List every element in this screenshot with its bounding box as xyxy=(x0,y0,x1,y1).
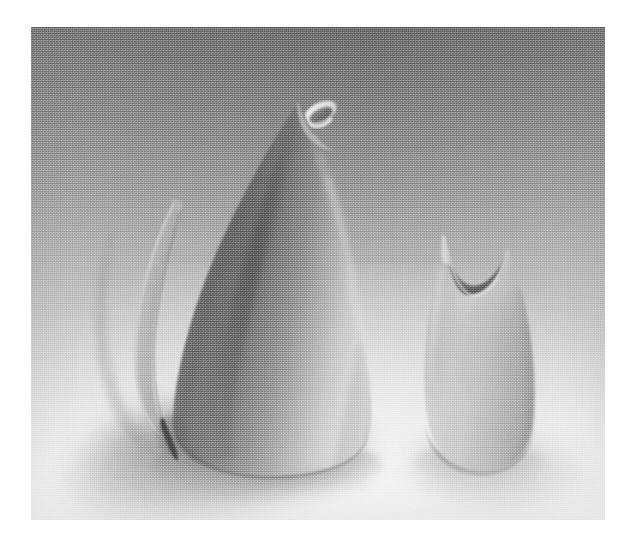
large-vessel-vertical-shading xyxy=(173,101,371,476)
screenshot-root: Two Sculptural Ceramic Vessels Large con… xyxy=(0,0,629,549)
fin-junction-soft xyxy=(158,415,184,455)
small-vessel xyxy=(413,233,545,480)
photograph xyxy=(31,27,605,520)
large-vessel-reflection xyxy=(163,465,371,493)
vessels-group xyxy=(31,27,605,520)
large-vessel xyxy=(151,96,383,491)
small-vessel-reflection xyxy=(423,466,539,488)
